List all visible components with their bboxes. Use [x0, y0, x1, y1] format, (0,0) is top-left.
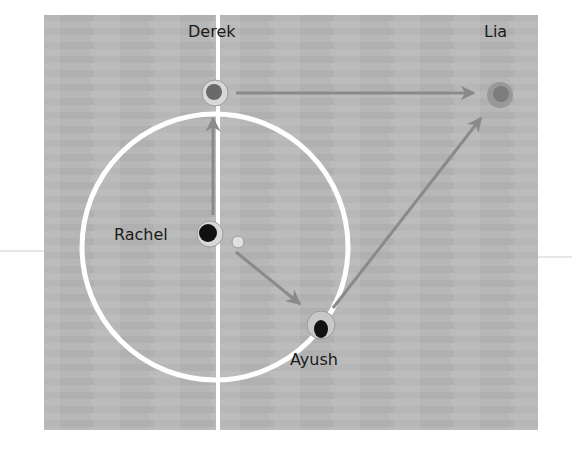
- player-label-derek: Derek: [188, 22, 236, 41]
- court-diagram: [0, 0, 572, 451]
- player-ayush: [307, 311, 335, 339]
- player-label-lia: Lia: [484, 22, 507, 41]
- player-lia: [487, 82, 513, 108]
- player-label-ayush: Ayush: [290, 350, 338, 369]
- player-derek: [202, 80, 228, 106]
- basketball-icon: [232, 236, 244, 248]
- player-label-rachel: Rachel: [114, 225, 168, 244]
